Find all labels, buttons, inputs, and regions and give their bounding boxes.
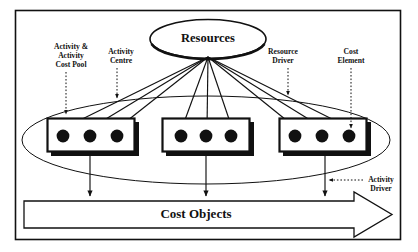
- resources-label: Resources: [181, 31, 235, 45]
- diagram-canvas: Resources: [0, 0, 418, 252]
- resources-node[interactable]: Resources: [150, 20, 266, 60]
- resource-driver-arrows: [64, 57, 350, 128]
- resource-driver-arrow-7: [208, 57, 296, 128]
- cost-element-dot: [289, 130, 302, 143]
- callout-activity-centre: Activity Centre: [108, 47, 134, 98]
- cost-element-dot: [316, 130, 329, 143]
- callout-activity-centre-line1: Activity: [108, 47, 134, 56]
- cost-element-dot: [200, 130, 213, 143]
- cost-objects-node[interactable]: Cost Objects: [24, 192, 392, 237]
- activity-driver-arrows: [90, 156, 325, 196]
- callout-cost-element-line1: Cost: [344, 47, 359, 56]
- cost-objects-label: Cost Objects: [160, 206, 231, 221]
- activity-cost-pool-middle[interactable]: [163, 119, 255, 157]
- callout-activity-driver-line2: Driver: [370, 184, 392, 193]
- resource-driver-arrow-2: [91, 57, 208, 128]
- activity-cost-pool-right[interactable]: [280, 119, 372, 157]
- cost-element-dot: [84, 130, 97, 143]
- cost-element-dot: [225, 130, 238, 143]
- resource-driver-arrow-8: [208, 57, 323, 128]
- callout-resource-driver: Resource Driver: [268, 47, 298, 95]
- callout-activity-cost-pool-line2: Activity: [58, 51, 84, 60]
- callout-resource-driver-line1: Resource: [268, 47, 298, 56]
- callout-cost-element-line2: Element: [338, 56, 365, 65]
- cost-element-dot: [343, 130, 356, 143]
- callout-activity-centre-line2: Centre: [110, 56, 133, 65]
- cost-element-dot: [175, 130, 188, 143]
- callout-activity-cost-pool-line1: Activity &: [54, 42, 88, 51]
- cost-element-dot: [111, 130, 124, 143]
- callout-activity-cost-pool: Activity & Activity Cost Pool: [54, 42, 88, 114]
- activity-cost-pool-left[interactable]: [48, 119, 140, 157]
- abc-cost-flow-diagram: Resources: [0, 0, 418, 252]
- callout-activity-cost-pool-line3: Cost Pool: [55, 60, 86, 69]
- cost-element-dot: [57, 130, 70, 143]
- callout-activity-driver: Activity Driver: [329, 175, 394, 193]
- callout-activity-driver-line1: Activity: [368, 175, 394, 184]
- callout-resource-driver-line2: Driver: [272, 56, 294, 65]
- resource-driver-arrow-9: [208, 57, 350, 128]
- resource-driver-arrow-5: [207, 57, 208, 128]
